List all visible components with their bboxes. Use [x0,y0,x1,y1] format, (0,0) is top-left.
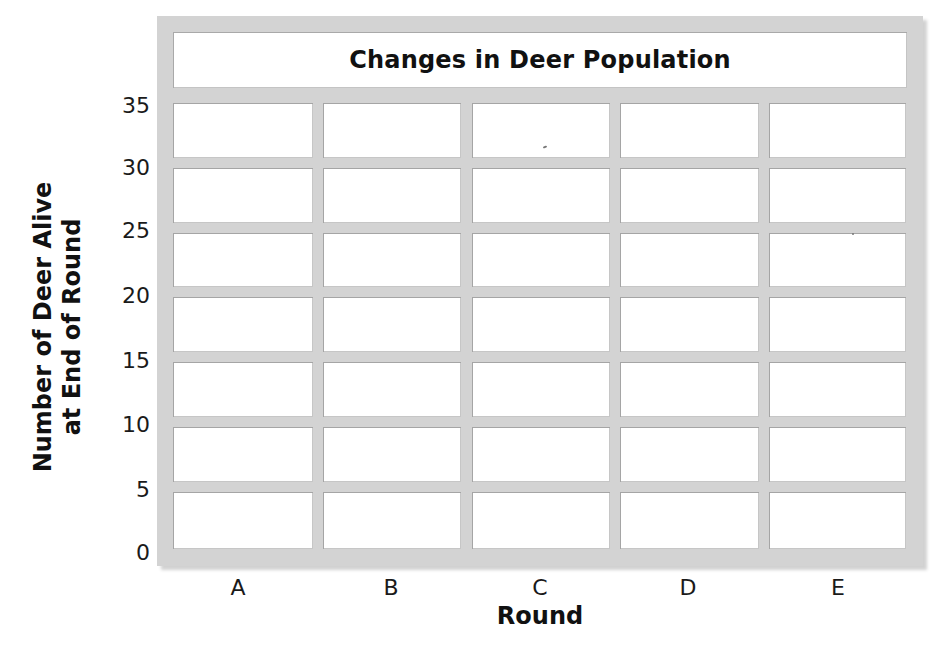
grid-cell [620,297,759,352]
grid-cell [472,427,610,482]
x-tick-label: A [230,577,245,599]
chart-title: Changes in Deer Population [349,46,731,74]
x-tick-label: D [680,577,697,599]
grid-cell [620,427,759,482]
y-tick-label: 10 [122,414,150,436]
grid-cell [769,168,906,223]
title-box: Changes in Deer Population [173,32,907,88]
grid-cell [769,297,906,352]
grid-cell [173,297,313,352]
grid-cell [620,362,759,417]
grid-cell [173,103,313,158]
y-tick-label: 5 [136,479,150,501]
grid-cell [769,362,906,417]
y-axis-label: Number of Deer Alive at End of Round [29,182,87,473]
x-tick-label: B [383,577,398,599]
y-tick-label: 30 [122,157,150,179]
grid-cell [173,427,313,482]
grid-cell [769,233,906,287]
grid-cell [472,362,610,417]
grid-cell [323,103,461,158]
grid-cell [323,362,461,417]
grid-cell [323,297,461,352]
grid-cell [173,362,313,417]
grid-cell [173,492,313,549]
grid-cell [323,233,461,287]
x-tick-label: E [831,577,845,599]
y-tick-label: 25 [122,220,150,242]
x-axis-label: Round [497,604,583,628]
grid-cell [769,427,906,482]
stray-mark [852,233,854,235]
grid-cell [769,492,906,549]
grid-cell [472,168,610,223]
grid-cell [620,103,759,158]
grid-cell [472,233,610,287]
chart-frame [157,16,923,566]
y-axis-label-line-1: Number of Deer Alive [29,182,58,473]
grid-cell [620,233,759,287]
grid-cell [472,492,610,549]
grid-cell [323,492,461,549]
y-axis-label-line-2: at End of Round [58,182,87,473]
grid-cell [173,233,313,287]
grid-cell [769,103,906,158]
y-tick-label: 35 [122,95,150,117]
x-tick-label: C [532,577,547,599]
grid-cell [323,427,461,482]
grid-cell [323,168,461,223]
y-tick-label: 20 [122,285,150,307]
y-tick-label: 0 [136,542,150,564]
grid-cell [173,168,313,223]
grid-cell [620,168,759,223]
grid-cell [620,492,759,549]
y-tick-label: 15 [122,350,150,372]
grid-cell [472,103,610,158]
grid-cell [472,297,610,352]
